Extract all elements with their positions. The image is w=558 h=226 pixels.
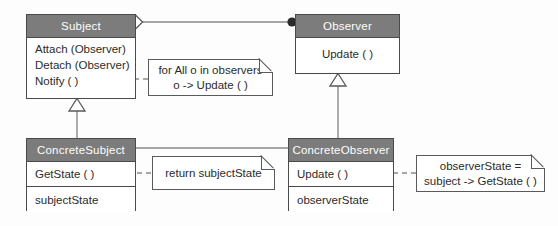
note-update-line-2: subject -> GetState ( ): [424, 174, 537, 189]
note-fold-icon: [531, 155, 545, 169]
class-operations-observer: Update ( ): [296, 38, 399, 71]
generalization-triangle-observer: [330, 74, 346, 87]
class-box-subject[interactable]: Subject Attach (Observer) Detach (Observ…: [26, 14, 136, 99]
note-notify-line-2: o -> Update ( ): [173, 78, 247, 93]
operation-update-concrete: Update ( ): [297, 166, 386, 182]
note-getstate-line-1: return subjectState: [165, 166, 262, 181]
class-operations-subject: Attach (Observer) Detach (Observer) Noti…: [27, 38, 135, 92]
operation-notify: Notify ( ): [35, 73, 128, 89]
class-name-concrete-observer: ConcreteObserver: [289, 139, 393, 162]
operation-update-observer: Update ( ): [296, 38, 399, 71]
operation-getstate: GetState ( ): [35, 166, 128, 182]
uml-class-diagram: Subject Attach (Observer) Detach (Observ…: [0, 0, 558, 226]
note-fold-icon: [259, 59, 273, 73]
class-attributes-concrete-observer: observerState: [289, 187, 393, 211]
class-operations-concrete-observer: Update ( ): [289, 162, 393, 187]
class-box-observer[interactable]: Observer Update ( ): [295, 14, 400, 74]
class-name-subject: Subject: [27, 15, 135, 38]
operation-attach: Attach (Observer): [35, 41, 128, 57]
note-notify-line-1: for All o in observers: [158, 63, 262, 78]
generalization-triangle-subject: [69, 99, 85, 112]
note-getstate[interactable]: return subjectState: [152, 156, 275, 190]
note-update[interactable]: observerState = subject -> GetState ( ): [416, 155, 545, 192]
note-fold-icon: [261, 156, 275, 170]
class-box-concrete-subject[interactable]: ConcreteSubject GetState ( ) subjectStat…: [26, 138, 136, 211]
class-name-concrete-subject: ConcreteSubject: [27, 139, 135, 162]
operation-detach: Detach (Observer): [35, 57, 128, 73]
class-name-observer: Observer: [296, 15, 399, 38]
class-operations-concrete-subject: GetState ( ): [27, 162, 135, 187]
class-attributes-concrete-subject: subjectState: [27, 187, 135, 211]
attribute-subject-state: subjectState: [35, 192, 128, 208]
note-update-line-1: observerState =: [440, 159, 522, 174]
class-box-concrete-observer[interactable]: ConcreteObserver Update ( ) observerStat…: [288, 138, 394, 211]
note-notify[interactable]: for All o in observers o -> Update ( ): [148, 59, 273, 96]
attribute-observer-state: observerState: [297, 192, 386, 208]
